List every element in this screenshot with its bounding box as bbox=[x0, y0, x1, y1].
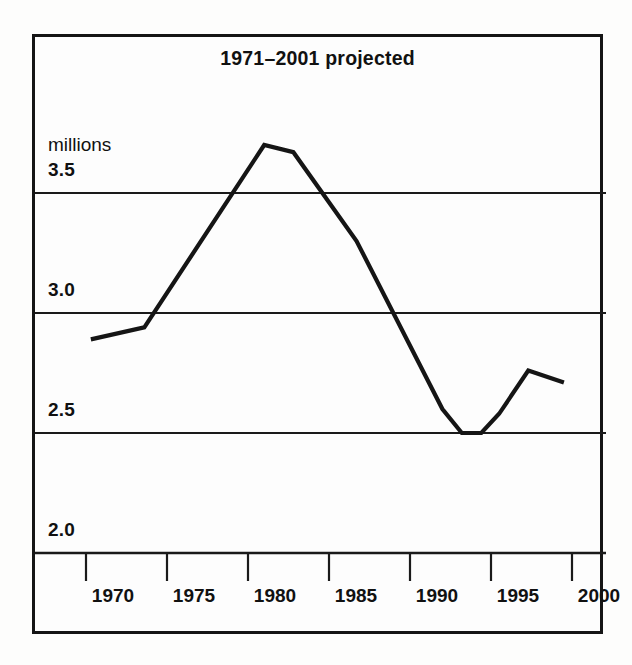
plot-canvas bbox=[35, 37, 606, 637]
chart-frame: 1971–2001 projected millions3.53.02.52.0… bbox=[32, 34, 603, 634]
x-tick-label-1995: 1995 bbox=[497, 585, 539, 607]
x-axis-ticks bbox=[86, 553, 572, 581]
y-axis-units-label: millions bbox=[48, 134, 111, 156]
x-tick-label-1985: 1985 bbox=[335, 585, 377, 607]
y-tick-label-2.5: 2.5 bbox=[48, 399, 75, 421]
series-line-0 bbox=[91, 145, 564, 433]
x-tick-label-1990: 1990 bbox=[416, 585, 458, 607]
x-tick-label-1975: 1975 bbox=[173, 585, 215, 607]
x-tick-label-1980: 1980 bbox=[254, 585, 296, 607]
y-tick-label-3.0: 3.0 bbox=[48, 279, 75, 301]
x-tick-label-1970: 1970 bbox=[92, 585, 134, 607]
x-tick-label-2000: 2000 bbox=[578, 585, 620, 607]
gridlines bbox=[35, 193, 606, 553]
data-line-series bbox=[91, 145, 564, 433]
y-tick-label-3.5: 3.5 bbox=[48, 159, 75, 181]
chart-figure: 1971–2001 projected millions3.53.02.52.0… bbox=[0, 0, 632, 665]
y-tick-label-2.0: 2.0 bbox=[48, 519, 75, 541]
